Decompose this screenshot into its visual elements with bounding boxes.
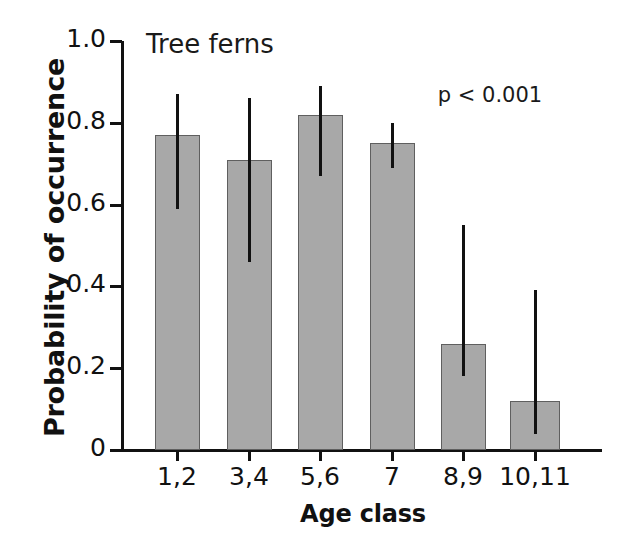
x-tick-mark xyxy=(534,449,537,461)
y-tick-label: 0.8 xyxy=(66,106,106,135)
y-tick-label: 0 xyxy=(90,433,106,462)
x-tick-label: 5,6 xyxy=(300,462,340,491)
error-bar xyxy=(248,98,251,262)
y-tick-label: 0.2 xyxy=(66,351,106,380)
x-tick-label: 10,11 xyxy=(499,462,571,491)
x-tick-mark xyxy=(176,449,179,461)
x-tick-label: 1,2 xyxy=(157,462,197,491)
y-tick-label: 0.6 xyxy=(66,188,106,217)
y-tick-mark xyxy=(110,40,122,43)
x-tick-mark xyxy=(248,449,251,461)
figure-bar-chart-tree-ferns: Probability of occurrence Age class Tree… xyxy=(0,0,626,555)
x-tick-label: 8,9 xyxy=(443,462,483,491)
error-bar xyxy=(319,86,322,176)
error-bar xyxy=(534,290,537,433)
y-tick-label: 1.0 xyxy=(66,24,106,53)
error-bar xyxy=(176,94,179,209)
y-axis-line xyxy=(121,41,124,452)
y-tick-mark xyxy=(110,204,122,207)
y-tick-mark xyxy=(110,122,122,125)
x-tick-mark xyxy=(391,449,394,461)
x-tick-label: 3,4 xyxy=(229,462,269,491)
y-tick-mark xyxy=(110,367,122,370)
x-tick-mark xyxy=(462,449,465,461)
y-tick-label: 0.4 xyxy=(66,269,106,298)
x-tick-label: 7 xyxy=(384,462,400,491)
bar xyxy=(370,143,415,450)
error-bar xyxy=(462,225,465,376)
y-tick-mark xyxy=(110,285,122,288)
x-tick-mark xyxy=(319,449,322,461)
plot-area: 00.20.40.60.81.0 1,23,45,678,910,11 xyxy=(0,0,626,555)
error-bar xyxy=(391,123,394,168)
y-tick-mark xyxy=(110,449,122,452)
